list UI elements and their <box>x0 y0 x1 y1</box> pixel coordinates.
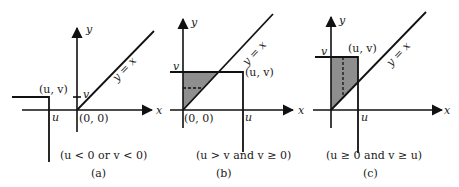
y-axis-label: y <box>190 16 198 29</box>
line-label: y = x <box>239 38 269 69</box>
origin-label: (0, 0) <box>184 112 214 125</box>
panel-a: y x y = x (u, v) v u (0, 0) (u < 0 or v … <box>12 23 163 180</box>
panel-b: y x y = x v (u, v) u (0, 0) (u > v and v… <box>170 14 305 180</box>
v-label: v <box>321 45 328 58</box>
line-label: y = x <box>383 39 413 70</box>
line-label: y = x <box>109 54 139 85</box>
panel-caption: (b) <box>216 167 232 180</box>
y-axis-label: y <box>85 23 93 36</box>
condition-label: (u ≥ 0 and v ≥ u) <box>326 149 422 162</box>
figure: y x y = x (u, v) v u (0, 0) (u < 0 or v … <box>0 0 459 187</box>
panel-caption: (a) <box>91 167 106 180</box>
origin-label: (0, 0) <box>79 112 109 125</box>
point-label: (u, v) <box>348 42 377 55</box>
u-label: u <box>52 111 59 124</box>
panel-caption: (c) <box>363 167 378 180</box>
u-label: u <box>245 111 252 124</box>
x-axis-label: x <box>444 104 451 117</box>
point-label: (u, v) <box>39 83 68 96</box>
v-label: v <box>83 88 90 101</box>
condition-label: (u < 0 or v < 0) <box>60 149 147 162</box>
condition-label: (u > v and v ≥ 0) <box>196 149 291 162</box>
x-axis-label: x <box>298 104 305 117</box>
region-corner <box>12 97 49 162</box>
shaded-region <box>331 57 358 110</box>
y-axis-label: y <box>338 14 346 27</box>
panel-c: y x y = x v (u, v) u (u ≥ 0 and v ≥ u) (… <box>313 12 451 180</box>
x-axis-label: x <box>156 104 163 117</box>
u-label: u <box>361 111 368 124</box>
v-label: v <box>173 60 180 73</box>
point-label: (u, v) <box>245 66 274 79</box>
